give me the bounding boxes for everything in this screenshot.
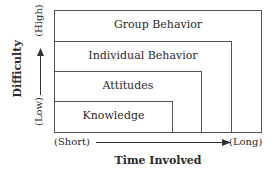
y-axis-high-label: (High)	[33, 3, 44, 39]
individual-behavior-label: Individual Behavior	[54, 49, 232, 62]
attitudes-label: Attitudes	[54, 79, 202, 92]
y-axis-title: Difficulty	[11, 48, 24, 98]
up-arrow-icon	[36, 48, 45, 57]
x-axis-short-label: (Short)	[54, 136, 90, 147]
x-axis-title: Time Involved	[54, 154, 262, 167]
y-axis-line	[40, 55, 41, 95]
knowledge-label: Knowledge	[54, 109, 173, 122]
group-behavior-label: Group Behavior	[54, 18, 262, 31]
y-axis-low-label: (Low)	[33, 96, 44, 128]
x-axis-line	[96, 142, 226, 143]
x-axis-long-label: (Long)	[229, 136, 262, 147]
